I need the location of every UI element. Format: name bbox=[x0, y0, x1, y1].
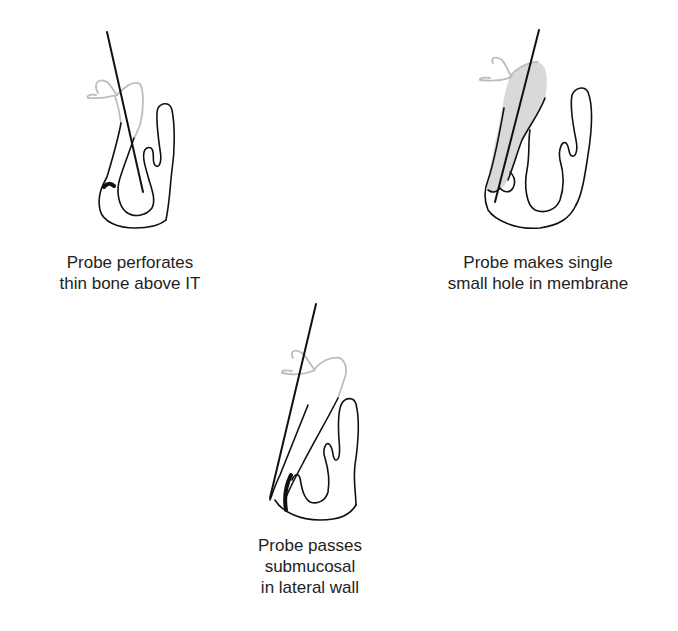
uncinate-process-outline bbox=[480, 58, 512, 81]
sinus-membrane-fill bbox=[487, 62, 547, 193]
caption-perforation: Probe perforates thin bone above IT bbox=[40, 252, 220, 294]
caption-submucosal: Probe passes submucosal in lateral wall bbox=[210, 535, 410, 598]
diagram-panel-perforation: Probe perforates thin bone above IT bbox=[0, 0, 240, 300]
uncinate-process-outline bbox=[282, 351, 315, 375]
lateral-nasal-wall-outline bbox=[99, 123, 166, 228]
turbinate-outline bbox=[292, 399, 358, 505]
probe-perforation-illustration bbox=[0, 0, 240, 240]
probe-line bbox=[107, 32, 143, 192]
caption-single-hole: Probe makes single small hole in membran… bbox=[408, 252, 668, 294]
probe-submucosal-illustration bbox=[200, 300, 440, 540]
thin-bone-perforation-mark bbox=[104, 184, 114, 187]
turbinate-outline bbox=[143, 104, 174, 220]
uncinate-process-outline bbox=[87, 80, 117, 98]
probe-line bbox=[270, 304, 316, 498]
diagram-panel-submucosal: Probe passes submucosal in lateral wall bbox=[200, 300, 440, 631]
probe-single-hole-illustration bbox=[400, 0, 678, 240]
diagram-panel-single-hole: Probe makes single small hole in membran… bbox=[400, 0, 678, 300]
